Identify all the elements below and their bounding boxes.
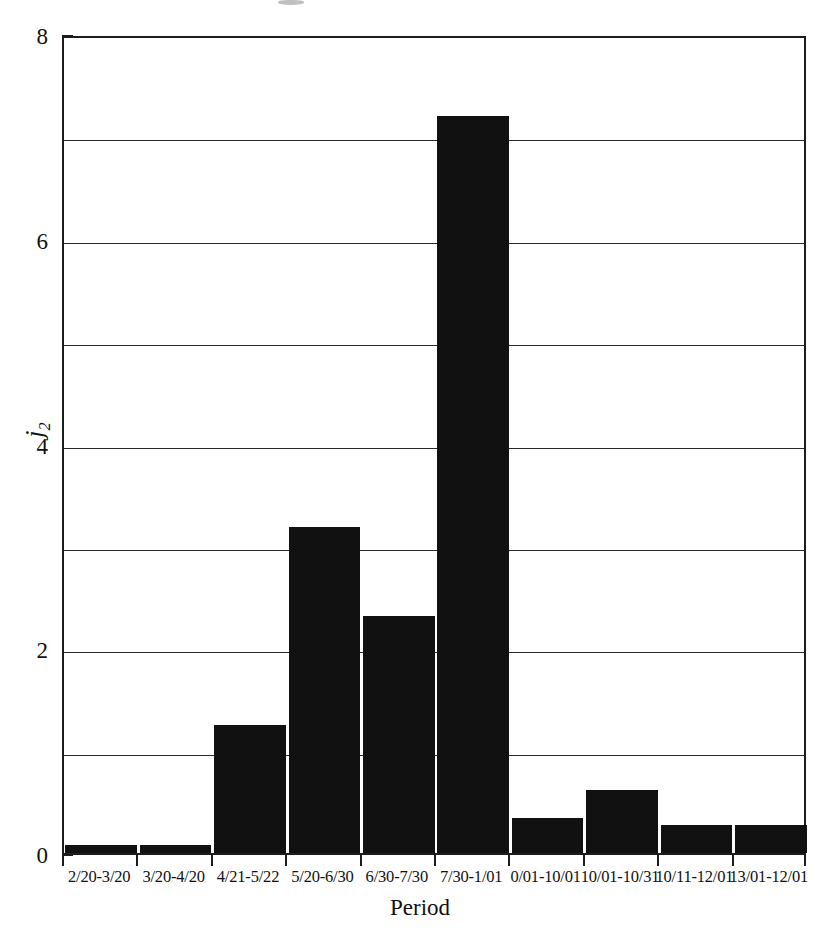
y-axis-tick-label: 6 <box>37 229 49 252</box>
bar-series <box>64 38 804 853</box>
bar <box>437 116 508 853</box>
bar <box>140 845 211 853</box>
y-axis-tick-labels: 02468 <box>0 36 56 855</box>
x-axis-tick-mark <box>434 855 436 866</box>
y-axis-tick-label: 0 <box>37 844 49 867</box>
bar <box>586 790 657 853</box>
bar <box>65 845 136 853</box>
x-axis-tick-labels: 2/20-3/203/20-4/204/21-5/225/20-6/306/30… <box>62 868 806 894</box>
x-axis-tick-label: 13/01-12/01 <box>730 868 808 886</box>
x-axis-tick-mark <box>360 855 362 866</box>
plot-area <box>62 36 806 855</box>
bar <box>363 616 434 854</box>
y-axis-tick-label: 4 <box>37 434 49 457</box>
x-axis-tick-mark <box>583 855 585 866</box>
y-axis-tick-label: 8 <box>37 25 49 48</box>
x-axis-tick-marks <box>62 855 806 867</box>
x-axis-tick-mark <box>804 855 806 866</box>
x-axis-tick-mark <box>211 855 213 866</box>
x-axis-tick-label: 6/30-7/30 <box>366 868 428 886</box>
x-axis-tick-mark <box>732 855 734 866</box>
scan-artifact-smudge <box>278 0 304 5</box>
x-axis-tick-mark <box>136 855 138 866</box>
x-axis-tick-label: 10/11-12/01 <box>655 868 733 886</box>
x-axis-tick-label: 2/20-3/20 <box>68 868 130 886</box>
y-axis-tick-label: 2 <box>37 639 49 662</box>
x-axis-tick-mark <box>285 855 287 866</box>
x-axis-tick-mark <box>62 855 64 866</box>
x-axis-tick-label: 10/01-10/31 <box>581 868 659 886</box>
x-axis-tick-label: 3/20-4/20 <box>142 868 204 886</box>
bar <box>661 825 732 853</box>
x-axis-tick-label: 0/01-10/01 <box>510 868 580 886</box>
x-axis-tick-label: 7/30-1/01 <box>440 868 502 886</box>
x-axis-tick-label: 4/21-5/22 <box>217 868 279 886</box>
bar <box>214 725 285 853</box>
bar-chart-figure: j2 02468 2/20-3/203/20-4/204/21-5/225/20… <box>0 0 840 934</box>
x-axis-tick-mark <box>508 855 510 866</box>
x-axis-tick-label: 5/20-6/30 <box>291 868 353 886</box>
bar <box>512 818 583 853</box>
bar <box>735 825 806 853</box>
x-axis-title: Period <box>0 896 840 919</box>
x-axis-tick-mark <box>657 855 659 866</box>
bar <box>289 527 360 853</box>
